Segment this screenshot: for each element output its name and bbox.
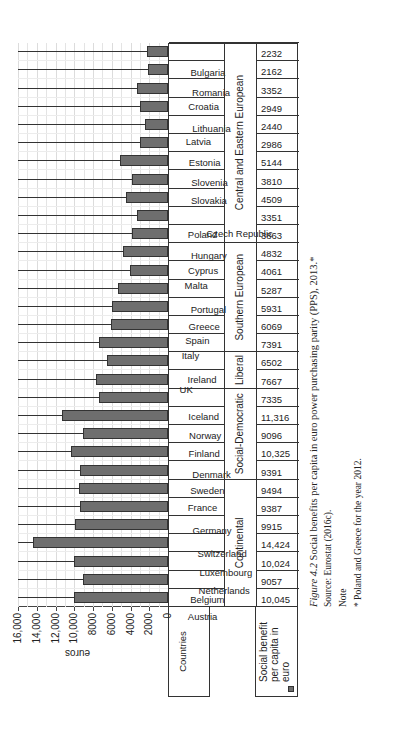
bar-line	[18, 251, 123, 252]
value-label: 3863	[261, 230, 282, 241]
bar-column	[18, 170, 168, 189]
country-label: Sweden	[190, 486, 224, 497]
bar-column	[18, 243, 168, 262]
bar-column	[18, 279, 168, 298]
bar	[112, 301, 168, 312]
country-row: AustriaBelgiumNetherlandsLuxembourgSwitz…	[169, 42, 224, 606]
bar-line	[18, 160, 120, 161]
bar	[140, 137, 168, 148]
y-tick-label: 12,000	[50, 613, 61, 647]
bar-column	[18, 206, 168, 225]
group-cell: Southern European	[225, 242, 257, 351]
y-tick-mark	[93, 607, 94, 611]
value-cell: 14,424	[257, 533, 299, 551]
value-label: 9494	[261, 485, 282, 496]
y-tick-mark	[131, 607, 132, 611]
country-label: Estonia	[189, 157, 221, 168]
y-tick-label: 16,000	[12, 613, 23, 647]
bar-column	[18, 315, 168, 334]
value-label: 7667	[261, 376, 282, 387]
country-label: Malta	[185, 280, 208, 291]
value-label: 7335	[261, 394, 282, 405]
bar-line	[18, 288, 118, 289]
bar-line	[18, 124, 145, 125]
value-cell: 3352	[257, 78, 299, 96]
bar-column	[18, 261, 168, 280]
value-cell: 9494	[257, 479, 299, 497]
group-cell: Liberal	[225, 351, 257, 387]
figure-number: Figure 4.2	[308, 563, 319, 607]
country-label: Italy	[182, 350, 199, 361]
value-cell: 4509	[257, 188, 299, 206]
value-cell: 9915	[257, 515, 299, 533]
value-label: 5287	[261, 285, 282, 296]
y-tick-label: 14,000	[31, 613, 42, 647]
value-cell: 9057	[257, 570, 299, 588]
value-label: 2986	[261, 139, 282, 150]
value-label: 10,325	[261, 448, 290, 459]
y-tick-label: 2000	[143, 613, 154, 647]
value-label: 3810	[261, 176, 282, 187]
value-label: 2162	[261, 66, 282, 77]
value-label: 2232	[261, 48, 282, 59]
value-cell: 11,316	[257, 406, 299, 424]
bar	[74, 592, 168, 603]
bar-line	[18, 106, 140, 107]
value-cell: 5931	[257, 297, 299, 315]
y-tick-mark	[18, 607, 19, 611]
value-label: 10,024	[261, 558, 290, 569]
group-label: Continental	[234, 518, 245, 569]
group-cell: Continental	[225, 479, 257, 606]
bar-line	[18, 433, 83, 434]
y-tick-label: 4000	[125, 613, 136, 647]
bar-column	[18, 79, 168, 98]
value-label: 9391	[261, 467, 282, 478]
value-cell: 7335	[257, 388, 299, 406]
group-label: Liberal	[234, 355, 245, 385]
bar	[99, 392, 168, 403]
country-cell: Bulgaria	[169, 42, 224, 60]
bar-column	[18, 424, 168, 443]
country-label: Norway	[189, 430, 221, 441]
bar	[120, 155, 168, 166]
bar-line	[18, 88, 137, 89]
bar-line	[18, 506, 80, 507]
value-label: 9387	[261, 503, 282, 514]
value-cell: 3863	[257, 224, 299, 242]
bar	[147, 46, 168, 57]
bar-line	[18, 360, 107, 361]
value-label: 6069	[261, 321, 282, 332]
bar-line	[18, 306, 112, 307]
legend-cell: Social benefit per capita in euro	[255, 607, 298, 697]
bar	[80, 465, 168, 476]
note-text: * Poland and Greece for the year 2012.	[351, 47, 366, 607]
value-label: 4509	[261, 194, 282, 205]
bar	[137, 210, 168, 221]
bar-column	[18, 97, 168, 116]
bar-column	[18, 388, 168, 407]
bar-column	[18, 61, 168, 80]
bar-line	[18, 324, 111, 325]
bar	[145, 119, 168, 130]
bar	[148, 64, 168, 75]
y-axis-label: euros	[65, 648, 90, 659]
bar	[71, 446, 168, 457]
y-tick-mark	[74, 607, 75, 611]
bar-column	[18, 152, 168, 171]
bar	[75, 519, 168, 530]
value-cell: 6502	[257, 351, 299, 369]
bar-column	[18, 570, 168, 589]
bar-line	[18, 524, 75, 525]
data-table: AustriaBelgiumNetherlandsLuxembourgSwitz…	[168, 43, 298, 607]
value-cell: 5287	[257, 279, 299, 297]
country-cell: Poland	[169, 206, 224, 224]
country-label: Hungary	[191, 250, 227, 261]
bar-line	[18, 142, 140, 143]
value-cell: 5144	[257, 151, 299, 169]
country-cell: Iceland	[169, 388, 224, 406]
bar-line	[18, 488, 79, 489]
bar-line	[18, 342, 99, 343]
bar-column	[18, 497, 168, 516]
bar-column	[18, 406, 168, 425]
country-label: Latvia	[186, 135, 211, 146]
